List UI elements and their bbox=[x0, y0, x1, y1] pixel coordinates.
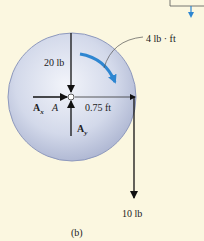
moment-label: 4 lb · ft bbox=[146, 34, 176, 44]
force-10lb-label: 10 lb bbox=[122, 209, 142, 219]
pin-a bbox=[68, 94, 74, 100]
reaction-ax-label: Ax bbox=[33, 103, 44, 116]
force-20lb-label: 20 lb bbox=[44, 58, 64, 68]
partial-frame-box bbox=[170, 0, 204, 18]
distance-label: 0.75 ft bbox=[85, 103, 111, 113]
figure-caption: (b) bbox=[71, 228, 83, 238]
pin-label: A bbox=[52, 103, 58, 113]
reaction-ay-label: Ay bbox=[77, 124, 87, 137]
